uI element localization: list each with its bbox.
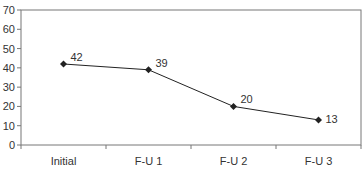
y-tick-label: 0 <box>9 139 15 151</box>
data-label: 42 <box>71 51 83 63</box>
series-line <box>64 64 319 120</box>
x-tick-label: F-U 1 <box>135 155 163 167</box>
y-tick-label: 30 <box>3 81 15 93</box>
y-tick-label: 40 <box>3 62 15 74</box>
diamond-marker-icon <box>145 66 152 73</box>
x-axis: InitialF-U 1F-U 2F-U 3 <box>21 145 361 167</box>
data-label: 20 <box>241 93 253 105</box>
data-label: 39 <box>156 57 168 69</box>
plot-frame <box>21 10 361 145</box>
diamond-marker-icon <box>230 103 237 110</box>
x-tick-label: F-U 3 <box>305 155 333 167</box>
diamond-marker-icon <box>60 61 67 68</box>
x-tick-label: F-U 2 <box>220 155 248 167</box>
data-series: 42392013 <box>60 51 338 125</box>
y-tick-label: 20 <box>3 100 15 112</box>
y-tick-label: 10 <box>3 120 15 132</box>
diamond-marker-icon <box>315 116 322 123</box>
x-tick-label: Initial <box>51 155 77 167</box>
y-tick-label: 50 <box>3 43 15 55</box>
line-chart: 010203040506070 InitialF-U 1F-U 2F-U 3 4… <box>0 0 364 173</box>
y-tick-label: 60 <box>3 23 15 35</box>
y-axis: 010203040506070 <box>3 4 21 151</box>
y-tick-label: 70 <box>3 4 15 16</box>
data-label: 13 <box>326 113 338 125</box>
